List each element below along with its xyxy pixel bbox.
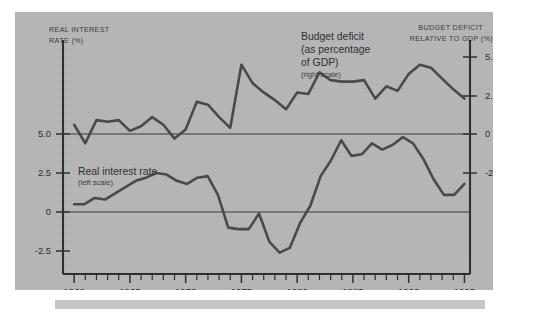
left-tick-label-0: 5.0: [38, 128, 51, 139]
right-tick-label-2: 0: [485, 128, 490, 139]
left-axis-title-line1: REAL INTEREST: [49, 25, 110, 34]
deficit-annotation: Budget deficit (as percentage of GDP) (r…: [301, 31, 371, 79]
right-axis-title-line2: RELATIVE TO GDP (%): [410, 34, 493, 43]
x-tick-label-1990: 1990: [398, 286, 419, 290]
x-tick-label-1985: 1985: [342, 286, 363, 290]
rate-annotation: Real interest rate (left scale): [78, 166, 157, 187]
x-axis-tick-labels: 19601965197019751980198519901995: [63, 286, 475, 290]
deficit-annotation-line1: Budget deficit: [301, 31, 364, 42]
x-tick-label-1995: 1995: [454, 286, 475, 290]
x-tick-label-1980: 1980: [286, 286, 307, 290]
right-axis-title-line1: BUDGET DEFICIT: [418, 23, 483, 32]
chart-figure: 5.0 2.5 0 -2.5 5.0 2.5 0 -2.5 1960196519…: [0, 0, 541, 315]
right-axis-tick-labels: 5.0 2.5 0 -2.5: [485, 51, 493, 178]
left-tick-label-1: 2.5: [38, 167, 51, 178]
left-axis-title-line2: RATE (%): [49, 36, 84, 45]
deficit-annotation-line3: of GDP): [301, 57, 339, 68]
left-tick-label-2: 0: [46, 206, 51, 217]
right-tick-label-3: -2.5: [485, 167, 493, 178]
rate-annotation-line1: Real interest rate: [78, 166, 157, 177]
deficit-annotation-line2: (as percentage: [301, 44, 371, 55]
series-budget-deficit: [74, 65, 464, 144]
chart-canvas: 5.0 2.5 0 -2.5 5.0 2.5 0 -2.5 1960196519…: [15, 12, 493, 290]
x-tick-label-1965: 1965: [119, 286, 140, 290]
x-tick-label-1970: 1970: [175, 286, 196, 290]
x-tick-label-1960: 1960: [63, 286, 84, 290]
right-tick-label-1: 2.5: [485, 90, 493, 101]
deficit-annotation-scale: (right scale): [301, 70, 341, 79]
left-tick-label-3: -2.5: [35, 245, 51, 256]
x-axis-ticks: [74, 274, 464, 283]
left-axis-title: REAL INTEREST RATE (%): [49, 25, 110, 45]
right-axis-title: BUDGET DEFICIT RELATIVE TO GDP (%): [410, 23, 493, 43]
right-tick-label-0: 5.0: [485, 51, 493, 62]
x-tick-label-1975: 1975: [231, 286, 252, 290]
left-axis-tick-labels: 5.0 2.5 0 -2.5: [35, 128, 51, 256]
rate-annotation-scale: (left scale): [78, 178, 113, 187]
series-real-interest-rate: [74, 137, 464, 252]
footer-bar: [55, 300, 485, 309]
